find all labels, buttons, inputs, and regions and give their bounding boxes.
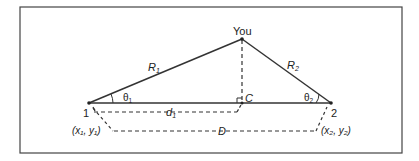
theta1-label: θ1 <box>123 92 133 104</box>
r2-label: R2 <box>287 59 299 72</box>
theta2-label: θ2 <box>304 92 314 104</box>
r1-label: R1 <box>148 61 160 74</box>
theta2-arc <box>316 94 319 103</box>
d1-label: d1 <box>166 106 176 119</box>
point-2-label: 2 <box>331 107 337 119</box>
point-2-marker <box>329 101 333 105</box>
point-1-label: 1 <box>83 107 89 119</box>
coord-1-label: (x₁, y₁) <box>72 125 101 136</box>
d-label: D <box>218 125 226 137</box>
you-label: You <box>233 25 252 37</box>
coord-2-label: (x₂, y₂) <box>321 125 351 136</box>
d1-tick <box>237 105 241 112</box>
theta1-arc <box>111 94 113 103</box>
point-1-marker <box>87 101 91 105</box>
r1-line <box>89 39 242 103</box>
you-marker <box>240 37 244 41</box>
r2-line <box>242 39 331 103</box>
c-marker <box>241 102 244 105</box>
triangulation-diagram: You R1 R2 θ1 θ2 C d1 D 1 2 (x₁, y₁) (x₂,… <box>0 0 419 161</box>
c-label: C <box>245 92 253 104</box>
